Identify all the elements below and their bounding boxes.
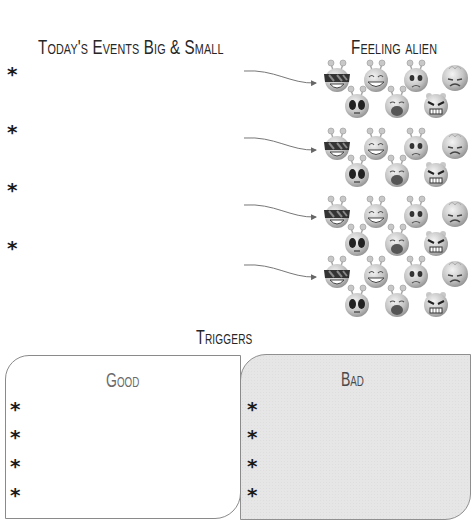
angry-face-icon bbox=[424, 292, 448, 317]
angry-face-icon bbox=[424, 231, 448, 256]
angry-face-icon bbox=[424, 162, 448, 187]
crying-face-icon bbox=[385, 285, 409, 317]
bad-bullet-1: * bbox=[247, 399, 257, 419]
angry-face-icon bbox=[424, 93, 448, 118]
sad-face-icon bbox=[442, 65, 468, 91]
good-triggers-box: Good * * * * bbox=[5, 355, 241, 519]
feeling-group-4 bbox=[244, 256, 468, 317]
shocked-face-icon bbox=[345, 155, 369, 187]
laughing-face-icon bbox=[364, 128, 388, 160]
good-bullet-1: * bbox=[10, 399, 20, 419]
cool-face-icon bbox=[324, 256, 350, 288]
bad-box-title: Bad bbox=[341, 368, 364, 391]
cool-face-icon bbox=[324, 128, 350, 160]
worried-face-icon bbox=[404, 256, 428, 288]
bad-bullet-2: * bbox=[247, 427, 257, 447]
laughing-face-icon bbox=[364, 196, 388, 228]
shocked-face-icon bbox=[345, 224, 369, 256]
arrow-icon bbox=[244, 138, 316, 150]
arrow-icon bbox=[244, 265, 316, 277]
sad-face-icon bbox=[442, 201, 468, 227]
bad-bullet-4: * bbox=[247, 485, 257, 505]
feeling-group-1 bbox=[244, 60, 468, 118]
shocked-face-icon bbox=[345, 285, 369, 317]
worried-face-icon bbox=[404, 60, 428, 92]
shocked-face-icon bbox=[345, 86, 369, 118]
good-bullet-2: * bbox=[10, 427, 20, 447]
bad-bullet-3: * bbox=[247, 456, 257, 476]
sad-face-icon bbox=[442, 261, 468, 287]
triggers-section-title: Triggers bbox=[196, 326, 252, 349]
feelings-illustration bbox=[0, 0, 474, 330]
worried-face-icon bbox=[404, 128, 428, 160]
good-bullet-3: * bbox=[10, 456, 20, 476]
arrow-icon bbox=[244, 205, 316, 217]
crying-face-icon bbox=[385, 224, 409, 256]
arrow-icon bbox=[244, 71, 316, 83]
feeling-group-2 bbox=[244, 128, 468, 187]
cool-face-icon bbox=[324, 196, 350, 228]
good-box-title: Good bbox=[106, 369, 139, 392]
good-bullet-4: * bbox=[10, 485, 20, 505]
crying-face-icon bbox=[385, 86, 409, 118]
sad-face-icon bbox=[442, 133, 468, 159]
cool-face-icon bbox=[324, 60, 350, 92]
crying-face-icon bbox=[385, 155, 409, 187]
laughing-face-icon bbox=[364, 256, 388, 288]
laughing-face-icon bbox=[364, 60, 388, 92]
worried-face-icon bbox=[404, 196, 428, 228]
feeling-group-3 bbox=[244, 196, 468, 256]
bad-triggers-box: Bad * * * * bbox=[240, 354, 471, 520]
